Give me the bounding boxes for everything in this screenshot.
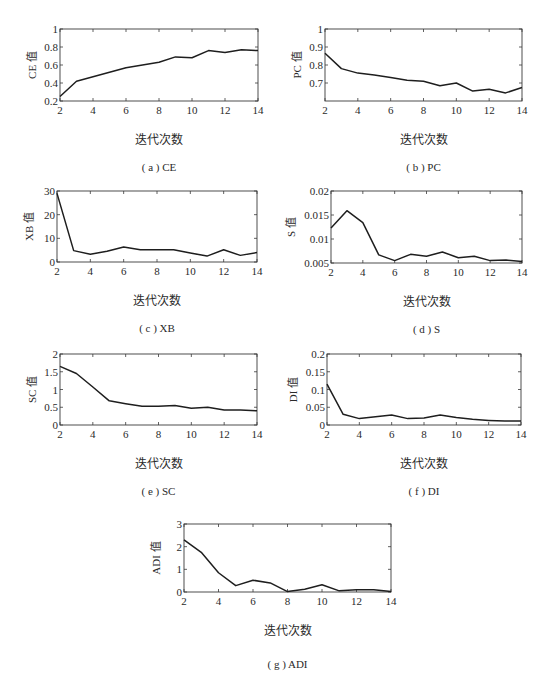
- data-series-line: [325, 53, 522, 93]
- y-tick-label: 0.2: [44, 95, 58, 107]
- y-tick-label: 1: [53, 23, 59, 35]
- subfigure-caption: ( c ) XB: [139, 322, 175, 335]
- x-tick-label: 6: [250, 595, 256, 607]
- y-tick-label: 0: [177, 586, 183, 598]
- y-tick-label: 0.6: [44, 59, 58, 71]
- y-tick-label: 0.05: [306, 401, 326, 413]
- x-tick-label: 12: [484, 104, 495, 116]
- x-tick-label: 8: [285, 595, 291, 607]
- chart-b: 24681012140.70.80.91PC 值迭代次数( b ) PC: [291, 23, 528, 174]
- chart-d: 24681012140.0050.010.0150.02S 值迭代次数( d )…: [285, 185, 528, 336]
- plot-frame: [60, 29, 258, 101]
- subfigure-caption: ( b ) PC: [406, 161, 441, 174]
- x-tick-label: 6: [388, 104, 394, 116]
- x-axis-label: 迭代次数: [400, 456, 448, 471]
- y-axis-label: ADI 值: [150, 541, 162, 574]
- x-axis-label: 迭代次数: [400, 132, 448, 147]
- x-axis-label: 迭代次数: [264, 623, 312, 638]
- y-tick-label: 0.2: [311, 348, 325, 360]
- data-series-line: [60, 50, 258, 97]
- y-tick-label: 0.7: [309, 77, 323, 89]
- x-axis-label: 迭代次数: [133, 293, 181, 308]
- x-tick-label: 6: [389, 428, 395, 440]
- x-tick-label: 8: [421, 104, 427, 116]
- x-tick-label: 6: [121, 265, 127, 277]
- chart-c: 24681012140102030XB 值迭代次数( c ) XB: [23, 185, 263, 335]
- figure-panel: 24681012140.20.40.60.81CE 值迭代次数( a ) CE2…: [0, 0, 554, 684]
- subfigure-caption: ( g ) ADI: [267, 658, 307, 671]
- x-tick-label: 2: [57, 104, 63, 116]
- chart-a: 24681012140.20.40.60.81CE 值迭代次数( a ) CE: [26, 23, 264, 174]
- x-tick-label: 14: [253, 104, 265, 116]
- y-tick-label: 10: [44, 232, 56, 244]
- y-tick-label: 1: [53, 384, 59, 396]
- x-tick-label: 4: [355, 104, 361, 116]
- x-tick-label: 10: [185, 265, 197, 277]
- y-tick-label: 0.5: [44, 401, 58, 413]
- y-axis-label: PC 值: [291, 51, 303, 78]
- y-tick-label: 0: [320, 419, 326, 431]
- x-axis-label: 迭代次数: [135, 132, 183, 147]
- x-tick-label: 12: [351, 595, 362, 607]
- y-axis-label: XB 值: [23, 212, 35, 241]
- x-tick-label: 12: [483, 428, 494, 440]
- x-tick-label: 12: [485, 266, 496, 278]
- x-tick-label: 10: [451, 428, 463, 440]
- y-axis-label: DI 值: [287, 377, 299, 402]
- subfigure-caption: ( d ) S: [413, 323, 440, 336]
- y-tick-label: 0: [50, 256, 56, 268]
- x-tick-label: 6: [392, 266, 398, 278]
- chart-g: 24681012140123ADI 值迭代次数( g ) ADI: [150, 518, 397, 671]
- y-tick-label: 0.4: [44, 77, 58, 89]
- x-tick-label: 14: [517, 266, 529, 278]
- charts-canvas: 24681012140.20.40.60.81CE 值迭代次数( a ) CE2…: [0, 0, 554, 684]
- x-tick-label: 6: [123, 104, 129, 116]
- x-tick-label: 8: [154, 265, 160, 277]
- x-tick-label: 12: [219, 428, 230, 440]
- subfigure-caption: ( a ) CE: [142, 161, 177, 174]
- x-tick-label: 2: [54, 265, 60, 277]
- x-tick-label: 4: [90, 104, 96, 116]
- y-tick-label: 0.015: [304, 209, 329, 221]
- x-tick-label: 6: [123, 428, 129, 440]
- x-tick-label: 10: [187, 104, 199, 116]
- plot-frame: [60, 354, 257, 425]
- x-tick-label: 10: [317, 595, 329, 607]
- subfigure-caption: ( f ) DI: [409, 485, 440, 498]
- data-series-line: [331, 211, 522, 262]
- plot-frame: [331, 191, 522, 263]
- x-axis-label: 迭代次数: [403, 294, 451, 309]
- y-tick-label: 0.1: [311, 384, 325, 396]
- y-tick-label: 0.005: [304, 257, 329, 269]
- x-tick-label: 8: [156, 104, 162, 116]
- data-series-line: [327, 384, 521, 421]
- y-tick-label: 0.8: [309, 59, 323, 71]
- y-axis-label: S 值: [285, 217, 297, 237]
- y-tick-label: 1: [177, 563, 183, 575]
- x-tick-label: 2: [181, 595, 187, 607]
- data-series-line: [57, 193, 257, 256]
- y-tick-label: 0: [53, 419, 59, 431]
- x-tick-label: 10: [453, 266, 465, 278]
- x-tick-label: 14: [386, 595, 398, 607]
- y-tick-label: 20: [44, 209, 56, 221]
- plot-frame: [327, 354, 521, 425]
- x-tick-label: 2: [328, 266, 334, 278]
- data-series-line: [60, 366, 257, 410]
- y-tick-label: 0.15: [306, 366, 326, 378]
- plot-frame: [184, 524, 391, 592]
- x-tick-label: 4: [360, 266, 366, 278]
- x-tick-label: 12: [218, 265, 229, 277]
- x-tick-label: 4: [88, 265, 94, 277]
- y-tick-label: 30: [44, 185, 56, 197]
- x-tick-label: 8: [424, 266, 430, 278]
- x-tick-label: 8: [156, 428, 162, 440]
- y-axis-label: SC 值: [26, 376, 38, 403]
- x-axis-label: 迭代次数: [135, 456, 183, 471]
- x-tick-label: 10: [451, 104, 463, 116]
- x-tick-label: 14: [516, 428, 528, 440]
- y-tick-label: 1.5: [44, 366, 58, 378]
- y-tick-label: 3: [177, 518, 183, 530]
- x-tick-label: 2: [57, 428, 63, 440]
- x-tick-label: 2: [322, 104, 328, 116]
